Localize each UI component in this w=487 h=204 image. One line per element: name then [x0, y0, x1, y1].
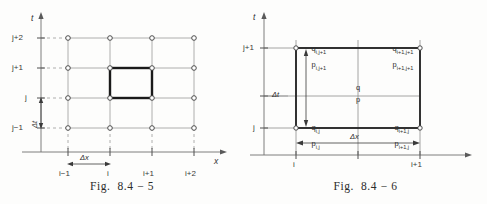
y-tick-j-plus-1: j+1 — [12, 64, 23, 72]
y-tick-j-plus-1: j+1 — [243, 44, 254, 52]
grid-vertical-lines — [68, 38, 194, 128]
delta-x-arrow-right — [105, 162, 111, 166]
grid-horizontal-lines — [68, 38, 194, 128]
x-axis-arrowhead — [220, 149, 227, 154]
grid-horizontal-dashes — [41, 38, 68, 128]
figure-8-4-6-caption: Fig. 8.4 − 6 — [244, 180, 487, 192]
grid-nodes — [66, 36, 197, 131]
delta-t-label: Δt — [31, 121, 39, 128]
p-subscript: i+1,j — [399, 143, 409, 149]
figure-page: t x j+2 j+1 j j−1 i−1 i i+1 i+2 Δx Δt Fi… — [0, 0, 487, 204]
delta-x-label: Δx — [80, 154, 89, 162]
delta-x-arrow-left — [67, 162, 73, 166]
y-tick-j: j — [25, 94, 27, 102]
delta-x-arrow-right — [413, 141, 420, 146]
delta-t-label: Δt — [272, 91, 279, 99]
node-label-p-i-plus-1-j: pi+1,j — [382, 132, 409, 157]
center-label-q: q — [356, 84, 360, 92]
x-tick-i-minus-1: i−1 — [59, 170, 70, 178]
y-tick-j-minus-1: j−1 — [12, 124, 23, 132]
p-subscript: i,j — [316, 143, 320, 149]
t-axis-arrowhead — [38, 12, 43, 19]
p-subscript: i,j+1 — [316, 64, 326, 70]
x-tick-i-plus-1: i+1 — [411, 161, 422, 169]
node-label-p-i-j: pi,j — [299, 132, 320, 157]
t-axis-label: t — [31, 14, 33, 23]
grid-vertical-dashes — [68, 128, 194, 152]
x-axis-arrowhead — [465, 152, 472, 157]
x-tick-i-plus-1: i+1 — [143, 170, 154, 178]
center-label-p: p — [356, 96, 360, 104]
x-axis-label: x — [214, 157, 218, 166]
figure-8-4-6: t j+1 j i i+1 Δt Δx qi,j+1 pi,j+1 qi+1,j… — [244, 0, 487, 204]
y-tick-j: j — [253, 124, 255, 132]
highlighted-cell — [110, 68, 152, 98]
y-tick-j-plus-2: j+2 — [12, 34, 23, 42]
figure-8-4-5-canvas — [0, 0, 244, 204]
t-axis-label: t — [253, 13, 255, 22]
p-subscript: i+1,j+1 — [397, 64, 414, 70]
figure-8-4-5: t x j+2 j+1 j j−1 i−1 i i+1 i+2 Δx Δt Fi… — [0, 0, 244, 204]
node-label-p-i-plus-1-j-plus-1: pi+1,j+1 — [380, 53, 413, 78]
x-tick-i: i — [107, 170, 109, 178]
figure-8-4-6-canvas — [244, 0, 487, 204]
t-axis-arrowhead — [261, 12, 266, 19]
node-label-p-i-j-plus-1: pi,j+1 — [299, 53, 326, 78]
delta-x-label: Δx — [350, 133, 359, 141]
x-tick-i-plus-2: i+2 — [185, 170, 196, 178]
figure-8-4-5-caption: Fig. 8.4 − 5 — [0, 180, 244, 192]
x-tick-i: i — [293, 161, 295, 169]
